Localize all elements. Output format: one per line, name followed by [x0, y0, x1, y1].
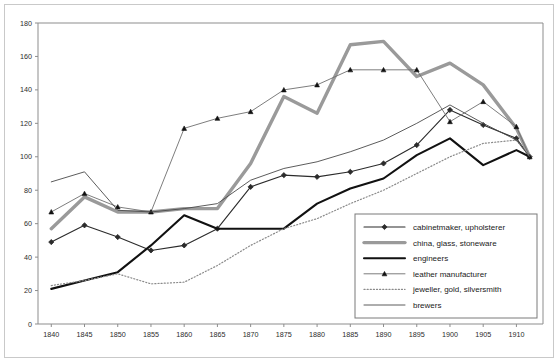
x-tick-label: 1870 — [243, 330, 259, 339]
x-tick-label: 1895 — [409, 330, 425, 339]
y-tick-label: 100 — [20, 152, 32, 161]
y-tick-label: 60 — [24, 219, 32, 228]
line-chart: 0204060801001201401601801840184518501855… — [5, 5, 553, 357]
x-tick-label: 1865 — [209, 330, 225, 339]
y-tick-label: 160 — [20, 52, 32, 61]
y-tick-label: 20 — [24, 286, 32, 295]
legend-label: leather manufacturer — [413, 270, 487, 279]
legend-label: engineers — [413, 254, 448, 263]
legend-label: cabinetmaker, upholsterer — [413, 223, 505, 232]
x-tick-label: 1875 — [276, 330, 292, 339]
x-tick-label: 1850 — [110, 330, 126, 339]
x-tick-label: 1880 — [309, 330, 325, 339]
x-tick-label: 1885 — [342, 330, 358, 339]
legend-label: brewers — [413, 301, 441, 310]
x-tick-label: 1890 — [376, 330, 392, 339]
y-tick-label: 120 — [20, 119, 32, 128]
x-tick-label: 1900 — [442, 330, 458, 339]
chart-frame: 0204060801001201401601801840184518501855… — [4, 4, 554, 358]
x-tick-label: 1905 — [475, 330, 491, 339]
y-tick-label: 140 — [20, 85, 32, 94]
y-tick-label: 0 — [28, 320, 32, 329]
legend-label: china, glass, stoneware — [413, 239, 497, 248]
x-tick-label: 1910 — [508, 330, 524, 339]
x-tick-label: 1855 — [143, 330, 159, 339]
y-tick-label: 40 — [24, 253, 32, 262]
legend: cabinetmaker, upholstererchina, glass, s… — [355, 214, 537, 318]
x-tick-label: 1845 — [77, 330, 93, 339]
y-tick-label: 180 — [20, 19, 32, 28]
legend-label: jeweller, gold, silversmith — [412, 285, 501, 294]
y-tick-label: 80 — [24, 186, 32, 195]
x-tick-label: 1840 — [43, 330, 59, 339]
x-tick-label: 1860 — [176, 330, 192, 339]
